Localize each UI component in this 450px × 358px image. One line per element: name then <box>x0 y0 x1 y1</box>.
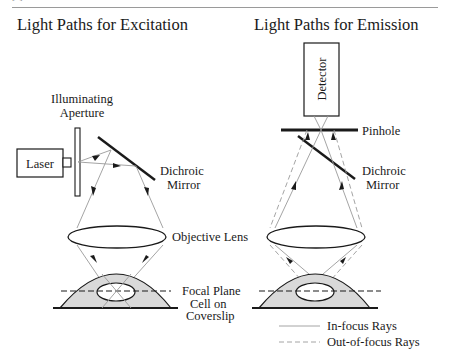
objective-lens-label: Objective Lens <box>172 230 248 244</box>
emission-arrows <box>286 132 346 264</box>
pinhole-label: Pinhole <box>362 124 401 138</box>
aperture-label-2: Aperture <box>60 106 105 120</box>
emission-in-focus-rays <box>275 116 357 280</box>
laser-source: Laser <box>17 149 71 177</box>
cell-on-coverslip-excitation <box>53 274 178 308</box>
cell-label-2: Coverslip <box>186 309 235 323</box>
laser-label: Laser <box>26 157 55 171</box>
objective-lens-emission <box>267 226 365 248</box>
dichroic-mirror-excitation <box>98 137 155 180</box>
mirror-label-1: Dichroic <box>160 164 204 178</box>
emission-mirror-label-2: Mirror <box>366 178 400 192</box>
excitation-panel: Light Paths for Excitation Illuminating … <box>17 15 248 323</box>
cell-on-coverslip-emission <box>252 274 381 308</box>
aperture-label-1: Illuminating <box>51 92 114 106</box>
legend-in-focus-label: In-focus Rays <box>327 319 397 333</box>
confocal-light-path-diagram: Light Paths for Excitation Illuminating … <box>0 0 450 358</box>
legend: In-focus Rays Out-of-focus Rays <box>279 319 420 349</box>
legend-out-of-focus-label: Out-of-focus Rays <box>327 335 420 349</box>
excitation-title: Light Paths for Excitation <box>17 15 188 34</box>
emission-panel: Light Paths for Emission Detector Pinhol… <box>252 15 420 349</box>
emission-title: Light Paths for Emission <box>254 15 419 34</box>
detector-label: Detector <box>315 57 329 101</box>
mirror-label-2: Mirror <box>167 178 201 192</box>
focal-plane-label: Focal Plane <box>182 284 241 298</box>
emission-mirror-label-1: Dichroic <box>362 164 406 178</box>
objective-lens-excitation <box>68 226 166 248</box>
